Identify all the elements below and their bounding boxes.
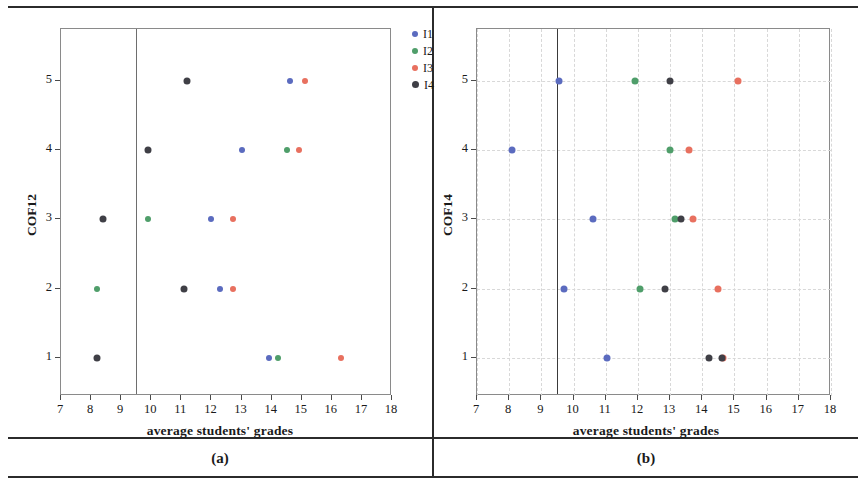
data-point-i2 — [284, 147, 290, 153]
x-axis-tick-label: 18 — [815, 402, 845, 417]
data-point-i3 — [302, 78, 308, 84]
x-axis-tick — [637, 395, 638, 400]
y-axis-tick — [55, 288, 60, 289]
x-axis-tick-label: 15 — [718, 402, 748, 417]
data-point-i4 — [94, 354, 101, 361]
y-axis-tick-label: 2 — [446, 280, 468, 295]
x-axis-tick — [150, 395, 151, 400]
data-point-i3 — [296, 147, 302, 153]
gridline-horizontal — [477, 81, 831, 82]
gridline-vertical — [477, 29, 478, 396]
x-axis-tick — [669, 395, 670, 400]
y-axis-tick — [471, 288, 476, 289]
y-axis-tick-label: 2 — [30, 280, 52, 295]
data-point-i4 — [145, 147, 152, 154]
legend-item-i2: I2 — [412, 43, 434, 58]
x-axis-tick-label: 8 — [75, 402, 105, 417]
x-axis-title-a: average students' grades — [8, 423, 432, 439]
y-axis-tick-label: 4 — [30, 141, 52, 156]
legend-item-i4: I4 — [412, 77, 434, 92]
data-point-i3 — [230, 286, 236, 292]
figure-container: COF12 average students' grades I1I2I3I4 … — [0, 0, 865, 479]
x-axis-tick — [733, 395, 734, 400]
x-axis-tick-label: 13 — [654, 402, 684, 417]
gridline-horizontal — [477, 358, 831, 359]
data-point-i3 — [686, 147, 693, 154]
y-axis-tick-label: 3 — [446, 210, 468, 225]
y-axis-tick-label: 1 — [30, 349, 52, 364]
gridline-vertical — [638, 29, 639, 396]
x-axis-tick — [830, 395, 831, 400]
y-axis-tick — [471, 149, 476, 150]
x-axis-tick — [271, 395, 272, 400]
y-axis-tick — [471, 80, 476, 81]
data-point-i1 — [287, 78, 293, 84]
x-axis-tick — [573, 395, 574, 400]
x-axis-tick — [90, 395, 91, 400]
x-axis-title-b: average students' grades — [434, 423, 858, 439]
legend: I1I2I3I4 — [412, 26, 434, 94]
gridline-horizontal — [477, 150, 831, 151]
threshold-line — [136, 29, 137, 394]
data-point-i1 — [208, 216, 214, 222]
x-axis-tick-label: 7 — [45, 402, 75, 417]
legend-item-i3: I3 — [412, 60, 434, 75]
x-axis-tick — [605, 395, 606, 400]
x-axis-tick-label: 18 — [376, 402, 406, 417]
x-axis-tick-label: 11 — [165, 402, 195, 417]
y-axis-tick — [55, 218, 60, 219]
data-point-i2 — [667, 147, 674, 154]
legend-item-i1: I1 — [412, 26, 434, 41]
x-axis-tick-label: 14 — [256, 402, 286, 417]
data-point-i3 — [734, 77, 741, 84]
data-point-i2 — [631, 77, 638, 84]
scatter-plot-b — [476, 28, 830, 395]
data-point-i2 — [275, 355, 281, 361]
x-axis-tick-label: 11 — [590, 402, 620, 417]
data-point-i3 — [715, 285, 722, 292]
x-axis-tick-label: 13 — [226, 402, 256, 417]
caption-a: (a) — [8, 443, 432, 473]
data-point-i1 — [217, 286, 223, 292]
y-axis-tick — [471, 357, 476, 358]
legend-label: I3 — [423, 62, 433, 74]
data-point-i1 — [604, 354, 611, 361]
scatter-plot-a — [60, 28, 391, 395]
x-axis-tick — [120, 395, 121, 400]
x-axis-tick — [391, 395, 392, 400]
x-axis-tick — [766, 395, 767, 400]
gridline-vertical — [767, 29, 768, 396]
x-axis-tick-label: 10 — [558, 402, 588, 417]
data-point-i1 — [239, 147, 245, 153]
y-axis-tick-label: 3 — [30, 210, 52, 225]
caption-b: (b) — [434, 443, 858, 473]
data-point-i4 — [667, 77, 674, 84]
x-axis-tick-label: 12 — [195, 402, 225, 417]
x-axis-tick — [361, 395, 362, 400]
x-axis-tick — [180, 395, 181, 400]
data-point-i4 — [705, 354, 712, 361]
gridline-horizontal — [477, 289, 831, 290]
data-point-i3 — [338, 355, 344, 361]
y-axis-tick-label: 4 — [446, 141, 468, 156]
x-axis-tick — [476, 395, 477, 400]
data-point-i4 — [184, 77, 191, 84]
x-axis-tick-label: 9 — [105, 402, 135, 417]
panel-a: COF12 average students' grades I1I2I3I4 … — [8, 8, 432, 437]
x-axis-tick — [540, 395, 541, 400]
gridline-vertical — [509, 29, 510, 396]
y-axis-tick-label: 5 — [30, 72, 52, 87]
data-point-i4 — [678, 216, 685, 223]
data-point-i1 — [560, 285, 567, 292]
data-point-i3 — [230, 216, 236, 222]
legend-swatch-icon — [412, 65, 418, 71]
legend-swatch-icon — [412, 81, 419, 88]
x-axis-tick — [798, 395, 799, 400]
x-axis-tick — [241, 395, 242, 400]
y-axis-tick — [55, 357, 60, 358]
data-point-i2 — [94, 286, 100, 292]
panel-b: COF14 average students' grades 789101112… — [434, 8, 858, 437]
gridline-vertical — [541, 29, 542, 396]
gridline-horizontal — [477, 219, 831, 220]
x-axis-tick-label: 14 — [686, 402, 716, 417]
